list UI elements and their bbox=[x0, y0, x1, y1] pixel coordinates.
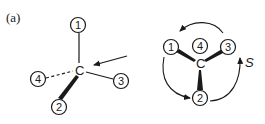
center-atom-c: C bbox=[196, 56, 205, 71]
rotation-arc-2-to-3 bbox=[210, 58, 240, 101]
svg-text:4: 4 bbox=[197, 40, 203, 52]
svg-text:1: 1 bbox=[168, 41, 174, 53]
substituent-1: 1 bbox=[164, 40, 179, 55]
svg-text:2: 2 bbox=[197, 92, 203, 104]
panel-label: (a) bbox=[6, 10, 20, 25]
wedge-bond-c-to-2 bbox=[58, 75, 79, 100]
dashed-bond-c-to-4 bbox=[46, 71, 73, 78]
svg-text:3: 3 bbox=[118, 75, 124, 87]
rotation-arc-3-to-1 bbox=[180, 23, 223, 33]
svg-text:4: 4 bbox=[35, 73, 41, 85]
svg-text:3: 3 bbox=[225, 41, 231, 53]
svg-text:1: 1 bbox=[75, 19, 81, 31]
svg-text:2: 2 bbox=[56, 101, 62, 113]
substituent-1: 1 bbox=[71, 18, 86, 33]
substituent-4: 4 bbox=[31, 72, 46, 87]
substituent-3: 3 bbox=[114, 74, 129, 89]
center-atom-c: C bbox=[75, 63, 84, 78]
wedge-bond-c-to-1 bbox=[176, 49, 196, 62]
viewing-arrow bbox=[94, 56, 127, 65]
right-view: C 1 4 3 2 S bbox=[163, 23, 254, 106]
configuration-label: S bbox=[245, 55, 254, 70]
substituent-4: 4 bbox=[193, 39, 208, 54]
bond-c-to-3 bbox=[86, 72, 113, 79]
wedge-bond-c-to-2 bbox=[197, 70, 203, 90]
stereochemistry-diagram: (a) C 1 4 3 2 bbox=[0, 0, 265, 124]
rotation-arc-1-to-2 bbox=[163, 57, 190, 98]
left-view: C 1 4 3 2 bbox=[31, 18, 129, 115]
substituent-2: 2 bbox=[193, 91, 208, 106]
substituent-2: 2 bbox=[52, 100, 67, 115]
substituent-3: 3 bbox=[221, 40, 236, 55]
